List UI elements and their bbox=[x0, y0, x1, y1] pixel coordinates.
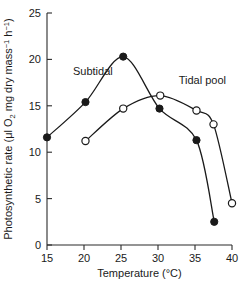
series-label-subtidal: Subtidal bbox=[73, 65, 113, 77]
data-point-1-3 bbox=[193, 107, 200, 114]
data-point-0-3 bbox=[156, 105, 163, 112]
axes bbox=[47, 13, 232, 245]
data-point-1-4 bbox=[210, 121, 217, 128]
y-tick-label-25: 25 bbox=[29, 7, 41, 19]
x-tick-label-40: 40 bbox=[226, 252, 238, 264]
x-tick-label-15: 15 bbox=[41, 252, 53, 264]
data-point-0-0 bbox=[43, 134, 50, 141]
data-point-1-2 bbox=[157, 92, 164, 99]
series-labels: SubtidalTidal pool bbox=[73, 65, 226, 85]
data-point-0-2 bbox=[120, 53, 127, 60]
y-tick-label-20: 20 bbox=[29, 53, 41, 65]
y-tick-label-15: 15 bbox=[29, 100, 41, 112]
series-label-tidal-pool: Tidal pool bbox=[179, 74, 226, 86]
data-point-0-5 bbox=[211, 218, 218, 225]
data-point-0-1 bbox=[82, 98, 89, 105]
y-tick-label-0: 0 bbox=[35, 239, 41, 251]
data-point-0-4 bbox=[193, 137, 200, 144]
y-tick-label-5: 5 bbox=[35, 193, 41, 205]
x-tick-label-25: 25 bbox=[115, 252, 127, 264]
y-axis-ticks: 0510152025 bbox=[29, 7, 52, 251]
data-point-1-0 bbox=[82, 137, 89, 144]
chart-canvas: 152025303540 0510152025 SubtidalTidal po… bbox=[0, 0, 244, 283]
y-axis-title: Photosynthetic rate (μl O2 mg dry mass−1… bbox=[2, 18, 17, 239]
x-tick-label-20: 20 bbox=[78, 252, 90, 264]
data-point-1-5 bbox=[228, 200, 235, 207]
y-tick-label-10: 10 bbox=[29, 146, 41, 158]
x-tick-label-30: 30 bbox=[152, 252, 164, 264]
x-tick-label-35: 35 bbox=[189, 252, 201, 264]
x-axis-title: Temperature (°C) bbox=[97, 267, 181, 279]
photosynthetic-rate-chart: 152025303540 0510152025 SubtidalTidal po… bbox=[0, 0, 244, 283]
x-axis-ticks: 152025303540 bbox=[41, 245, 238, 264]
data-point-1-1 bbox=[120, 105, 127, 112]
